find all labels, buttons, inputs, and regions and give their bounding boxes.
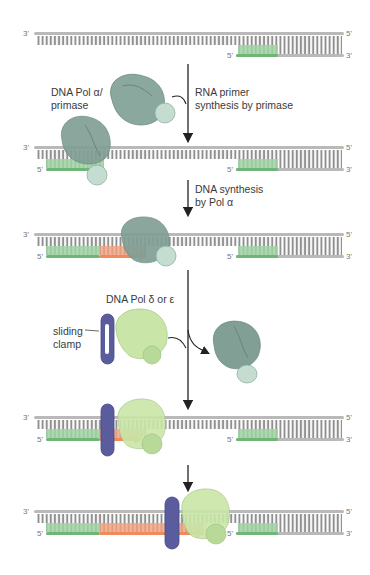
primase-label: primase <box>51 99 88 111</box>
dna-stage-1 <box>34 32 344 57</box>
end-label-top-left: 3' <box>23 414 29 422</box>
end-label-bottom-left: 5' <box>227 166 233 174</box>
pol-delta-label: DNA Pol δ or ε <box>106 293 174 305</box>
pol-alpha-extending <box>121 217 176 266</box>
dna-stage-4 <box>34 416 344 444</box>
end-label-top-left: 3' <box>23 508 29 516</box>
pol-delta-clamp-free <box>101 309 167 364</box>
end-label-bottom-right: 3' <box>346 253 352 261</box>
end-label-top-left: 3' <box>23 144 29 152</box>
end-label-top-left: 3' <box>23 231 29 239</box>
end-label-bottom-left: 5' <box>37 166 43 174</box>
dna-stage-3 <box>34 233 344 261</box>
pol-delta-processive <box>165 489 229 549</box>
step2-label-line2: by Pol α <box>195 196 233 208</box>
pol-alpha-primase-bound <box>61 116 110 185</box>
end-label-bottom-left: 5' <box>37 530 43 538</box>
step1-label-line1: RNA primer <box>195 86 249 98</box>
end-label-top-right: 5' <box>346 144 352 152</box>
pol-alpha-released <box>213 321 260 383</box>
end-label-bottom-right: 3' <box>346 52 352 60</box>
replication-diagram: 3' 5' 5' 3' 3' 5' 5' 5' 3' 3' 5' 5' 5' 3… <box>0 0 370 575</box>
end-label-bottom-right: 3' <box>346 530 352 538</box>
end-label-bottom-left: 5' <box>227 436 233 444</box>
step1-label-line2: synthesis by primase <box>195 99 293 111</box>
end-label-bottom-left: 5' <box>227 253 233 261</box>
step2-label-line1: DNA synthesis <box>195 183 263 195</box>
pol-delta-clamp-bound <box>101 399 165 456</box>
end-label-top-right: 5' <box>346 30 352 38</box>
clamp-label-line2: clamp <box>53 338 81 350</box>
end-label-top-right: 5' <box>346 414 352 422</box>
pol-alpha-primase-free <box>111 74 175 125</box>
end-label-bottom-left: 5' <box>37 253 43 261</box>
end-label-bottom-left: 5' <box>37 436 43 444</box>
end-label-bottom-left: 5' <box>227 52 233 60</box>
end-label-bottom-left: 5' <box>227 530 233 538</box>
end-label-top-left: 3' <box>23 30 29 38</box>
end-label-bottom-right: 3' <box>346 436 352 444</box>
end-label-top-right: 5' <box>346 231 352 239</box>
pol-alpha-label: DNA Pol α/ <box>51 86 103 98</box>
end-label-top-right: 5' <box>346 508 352 516</box>
end-label-bottom-right: 3' <box>346 166 352 174</box>
clamp-label-line1: sliding <box>53 325 83 337</box>
